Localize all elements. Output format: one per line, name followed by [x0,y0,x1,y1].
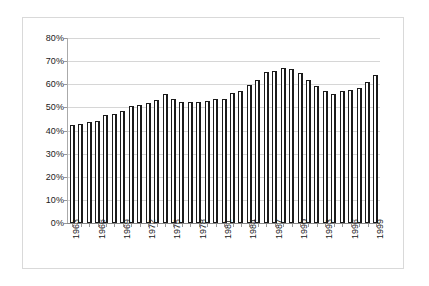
bar [230,93,235,223]
x-axis-tick-mark [106,224,107,227]
x-axis-slot: 1980 [211,224,219,268]
y-axis-tick-mark [64,223,67,224]
bar-slot [287,38,295,223]
x-axis-tick-mark [266,224,267,227]
x-axis-tick-mark [233,224,234,227]
y-axis-tick-label: 80% [30,34,64,43]
x-axis-slot: 1996 [346,224,354,268]
bar [78,124,83,223]
bar [129,106,134,223]
bar-slot [203,38,211,223]
bar [357,88,362,223]
bar [87,122,92,223]
x-axis-tick-mark [334,224,335,227]
x-axis-tick-mark [317,224,318,227]
x-axis-tick-mark [258,224,259,227]
bar [238,91,243,224]
x-axis-slot: 1972 [144,224,152,268]
bar-slot [195,38,203,223]
bar-slot [136,38,144,223]
bar-slot [93,38,101,223]
y-axis-tick-label: 20% [30,173,64,182]
x-axis-slot: 1999 [372,224,380,268]
bar [146,103,151,223]
x-axis-slot: 1991 [304,224,312,268]
bar [306,80,311,223]
bar-slot [228,38,236,223]
x-axis-tick-mark [182,224,183,227]
x-axis-tick-mark [359,224,360,227]
bar-series [68,38,380,223]
bar [205,101,210,223]
x-axis-slot: 1977 [186,224,194,268]
x-axis-tick-mark [283,224,284,227]
y-axis-tick-label: 70% [30,57,64,66]
x-axis-slot: 1985 [254,224,262,268]
x-axis-tick-mark [89,224,90,227]
y-axis-tick-label: 50% [30,103,64,112]
bar-slot [169,38,177,223]
x-axis-tick-mark [342,224,343,227]
x-axis-slot: 1990 [296,224,304,268]
bar-slot [313,38,321,223]
x-axis-slot: 1967 [102,224,110,268]
x-axis-tick-mark [140,224,141,227]
bar [120,111,125,223]
x-axis-slot: 1969 [119,224,127,268]
bar [331,94,336,223]
x-axis-slot: 1974 [161,224,169,268]
bar [163,94,168,223]
x-axis-tick-mark [190,224,191,227]
x-axis-slot: 1964 [76,224,84,268]
bar [213,99,218,223]
bar-slot [102,38,110,223]
x-axis-slot: 1978 [195,224,203,268]
bar-slot [296,38,304,223]
bar-slot [119,38,127,223]
x-axis-slot: 1992 [313,224,321,268]
x-axis-tick-mark [114,224,115,227]
x-axis-slot: 1979 [203,224,211,268]
bar-slot [127,38,135,223]
x-axis-slot: 1975 [169,224,177,268]
y-axis-tick-label: 10% [30,196,64,205]
bar [154,100,159,223]
x-axis-tick-mark [207,224,208,227]
x-axis-slot: 1963 [68,224,76,268]
x-axis-tick-mark [165,224,166,227]
bar [247,85,252,223]
bar [103,115,108,223]
x-axis-slot: 1988 [279,224,287,268]
bar [272,71,277,223]
y-axis-tick-mark [64,107,67,108]
x-axis-slot: 1973 [152,224,160,268]
x-axis-slot: 1981 [220,224,228,268]
bar [264,72,269,223]
bar-slot [161,38,169,223]
bar-slot [68,38,76,223]
y-axis-tick-label: 60% [30,80,64,89]
x-axis-slot: 1966 [93,224,101,268]
bar [373,75,378,223]
bar-slot [76,38,84,223]
bar-slot [271,38,279,223]
x-axis-tick-mark [368,224,369,227]
bar-slot [186,38,194,223]
bar-slot [346,38,354,223]
bar [95,121,100,223]
bar-slot [304,38,312,223]
x-axis-slot: 1998 [363,224,371,268]
y-axis-tick-mark [64,84,67,85]
x-axis-tick-mark [157,224,158,227]
bar [289,69,294,223]
x-axis-slot: 1971 [136,224,144,268]
y-axis-tick-mark [64,154,67,155]
bar [298,73,303,223]
bar [70,125,75,223]
y-axis-tick-label: 40% [30,127,64,136]
x-axis-tick-mark [216,224,217,227]
bar-slot [262,38,270,223]
x-axis-slot: 1994 [330,224,338,268]
x-axis-tick-label: 1999 [376,219,385,239]
bar [348,90,353,223]
